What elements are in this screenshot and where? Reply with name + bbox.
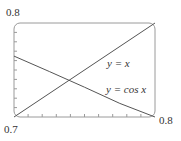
chart: 0.8 0.7 0.8 y = x y = cos x — [0, 0, 181, 141]
x-axis-right-label: 0.8 — [159, 114, 173, 126]
annotation-y-equals-cos-x: y = cos x — [105, 83, 146, 95]
line-y-equals-x — [14, 23, 155, 117]
y-axis-top-label: 0.8 — [6, 6, 20, 18]
x-axis-left-label: 0.7 — [4, 123, 18, 135]
annotation-y-equals-x: y = x — [106, 57, 130, 69]
